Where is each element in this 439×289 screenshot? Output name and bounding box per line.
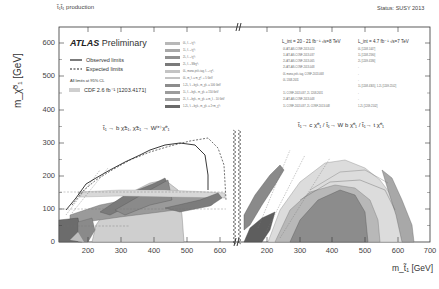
legend-channel: 2L, t̃₁→Wbχ̃⁰₁ bbox=[183, 63, 199, 66]
x-tick-right: 400 bbox=[320, 246, 344, 255]
right-panel-regions bbox=[244, 160, 414, 242]
y-tick: 200 bbox=[35, 171, 55, 180]
status-label: Status: SUSY 2013 bbox=[377, 5, 424, 11]
x-tick-left: 500 bbox=[175, 246, 199, 255]
legend-channel: 2L, t̃₁→bχ̃±₁, m_χ̃±₁ = m_t̃₁ - 10 GeV bbox=[183, 98, 225, 101]
ref-7tev: 1-2L [1209.2102] bbox=[358, 105, 378, 108]
x-axis-label: m_t̃₁ [GeV] bbox=[392, 263, 433, 273]
ref-7tev: 1L [1208.2590] bbox=[358, 54, 375, 57]
y-tick: 500 bbox=[35, 71, 55, 80]
atlas-brand: ATLAS bbox=[70, 38, 99, 48]
y-tick: 400 bbox=[35, 105, 55, 114]
legend-channel: 0L, mono-jet/c-tag, t̃₁→cχ̃⁰₁ bbox=[183, 70, 214, 73]
ref-8tev: 2L ATLAS-CONF-2013-048 bbox=[283, 66, 314, 69]
ref-7tev: 2L [1209.4186] bbox=[358, 60, 375, 63]
legend-cl-note: All limits at 95% CL bbox=[70, 78, 104, 83]
process-label-left: t̃₁ → b χ̃±₁, χ̃±₁ → W⁽*⁾ χ̃⁰₁ bbox=[103, 124, 169, 131]
legend-cdf: CDF 2.6 fb⁻¹ [1203.4171] bbox=[84, 87, 146, 93]
y-tick: 600 bbox=[35, 38, 55, 47]
legend-channel: 1-2L, t̃₁→bχ̃±₁, m_χ̃±₁ = 106 GeV bbox=[183, 84, 221, 87]
ref-8tev: 1L CONF-2013-037, 2L CONF-2013-048 bbox=[283, 105, 330, 108]
ref-8tev: 2L ATLAS-CONF-2013-065 bbox=[283, 60, 314, 63]
x-tick-left: 400 bbox=[142, 246, 166, 255]
legend-channel: 0L, t̃₁→tχ̃⁰₁ bbox=[183, 42, 195, 45]
legend-channel: 0L, m_t̃₁ = m_χ̃⁰₁ + 5 GeV bbox=[183, 77, 213, 80]
legend-swatches bbox=[165, 42, 180, 108]
ref-7tev: - bbox=[358, 73, 359, 76]
y-tick: 0 bbox=[35, 237, 55, 246]
ref-8tev: 0L mono-jet/c-tag, CONF-2013-068 bbox=[283, 73, 324, 76]
ref-7tev: - bbox=[358, 92, 359, 95]
ref-8tev: 1L ATLAS-CONF-2013-037 bbox=[283, 54, 314, 57]
ref-7tev: - bbox=[358, 98, 359, 101]
y-tick: 100 bbox=[35, 204, 55, 213]
legend-channel: 1L, t̃₁→tχ̃⁰₁ bbox=[183, 49, 195, 52]
y-axis-label: m_χ̃⁰₁ [GeV] bbox=[12, 53, 23, 108]
lumi-7tev: L_int = 4.7 fb⁻¹ √s=7 TeV bbox=[358, 39, 409, 44]
x-tick-right: 500 bbox=[353, 246, 377, 255]
x-tick-left: 300 bbox=[109, 246, 133, 255]
legend-observed: Observed limits bbox=[86, 57, 124, 63]
lumi-8tev: L_int = 20 - 21 fb⁻¹ √s=8 TeV bbox=[282, 39, 340, 44]
x-tick-right: 600 bbox=[386, 246, 410, 255]
ref-7tev: - bbox=[358, 79, 359, 82]
axis-break-marker bbox=[233, 23, 241, 246]
ref-8tev: 0L 1308.2631 bbox=[283, 79, 299, 82]
atlas-subtitle: Preliminary bbox=[102, 38, 147, 48]
ref-8tev: 0L ATLAS-CONF-2013-024 bbox=[283, 48, 314, 51]
x-tick-left: 200 bbox=[76, 246, 100, 255]
atlas-label: ATLAS Preliminary bbox=[70, 38, 147, 48]
x-tick-left: 600 bbox=[208, 246, 232, 255]
x-tick-right: 200 bbox=[255, 246, 279, 255]
cdf-legend-swatch bbox=[69, 88, 80, 92]
process-label-right: t̃₁→ c χ̃⁰₁ / t̃₁→ W b χ̃⁰₁ / t̃₁→ t χ̃⁰… bbox=[298, 121, 384, 128]
ref-7tev: 0L [1208.1447] bbox=[358, 48, 375, 51]
legend-channel: 2L, t̃₁→tχ̃⁰₁ bbox=[183, 56, 195, 59]
x-tick-right: 300 bbox=[288, 246, 312, 255]
ref-7tev: 1L [1208.4305], 1-2L [1209.2102] bbox=[358, 85, 396, 88]
legend-channel: 1L, t̃₁→bχ̃±₁, m_χ̃±₁ = 150 GeV bbox=[183, 91, 219, 94]
ref-7tev: - bbox=[358, 66, 359, 69]
ref-8tev: 2L ATLAS-CONF-2013-048 bbox=[283, 98, 314, 101]
legend-channel: 1-2L, t̃₁→bχ̃±₁, m_χ̃±₁ = 2×m_χ̃⁰₁ bbox=[183, 105, 220, 108]
ref-8tev: 1L CONF-2013-037, 2L 1208.2631 bbox=[283, 92, 323, 95]
y-tick: 300 bbox=[35, 138, 55, 147]
x-tick-right: 700 bbox=[418, 246, 439, 255]
production-label: t̃₁t̃₁ production bbox=[57, 4, 94, 10]
legend-expected: Expected limits bbox=[86, 66, 123, 72]
